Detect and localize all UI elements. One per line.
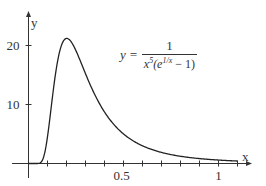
plot-area [0,0,266,186]
den-close: − 1) [172,57,195,71]
formula-numerator: 1 [164,38,175,54]
formula-fraction: 1 x5(e1/x − 1) [142,38,197,72]
y-axis-label: y [31,16,38,29]
formula-lhs: y = [120,47,138,63]
y-tick-label: 10 [7,98,20,111]
x-tick-label: 0.5 [114,169,130,182]
y-tick-label: 20 [7,39,20,52]
function-formula: y = 1 x5(e1/x − 1) [120,38,197,72]
x-tick-label: 1 [215,169,222,182]
x-axis-label: x [242,150,249,163]
formula-denominator: x5(e1/x − 1) [142,54,197,72]
den-exp: 1/x [162,56,172,65]
